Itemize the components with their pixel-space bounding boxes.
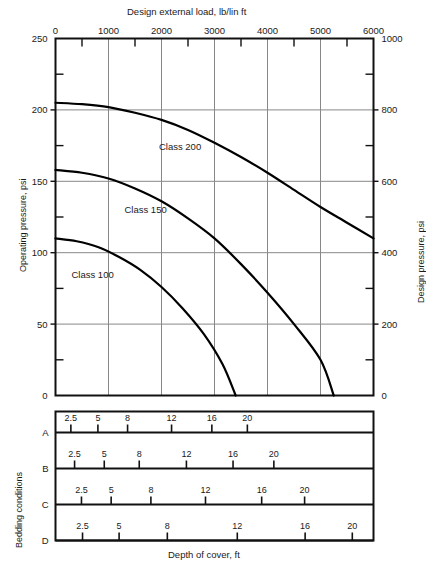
x-tick-label: 5000 (310, 25, 331, 36)
bedding-tick-label: 16 (207, 413, 217, 423)
gridlines (56, 39, 374, 396)
y-right-tick-label: 600 (382, 176, 398, 187)
bedding-tick-label: 12 (167, 413, 177, 423)
x-tick-label: 4000 (257, 25, 278, 36)
curve-label: Class 150 (124, 204, 166, 215)
y-right-tick-label: 1000 (382, 33, 403, 44)
y-left-tick-label: 0 (42, 390, 47, 401)
bedding-row-label: B (42, 463, 48, 474)
y-left-tick-label: 250 (32, 33, 48, 44)
bedding-tick-label: 16 (300, 521, 310, 531)
bedding-row-label: C (42, 499, 49, 510)
bedding-tick-label: 20 (242, 413, 252, 423)
bedding-tick-label: 8 (148, 485, 153, 495)
curve-class-150 (56, 170, 334, 396)
x-tick-label: 3000 (204, 25, 225, 36)
y-right-tick-label: 800 (382, 104, 398, 115)
bedding-tick-label: 2.5 (65, 413, 78, 423)
x-tick-label: 1000 (98, 25, 119, 36)
bedding-tick-label: 2.5 (75, 485, 88, 495)
y-right-tick-label: 200 (382, 319, 398, 330)
y-right-tick-label: 400 (382, 247, 398, 258)
bedding-tick-label: 2.5 (68, 449, 81, 459)
bedding-row-label: D (42, 535, 49, 546)
bedding-tick-label: 16 (257, 485, 267, 495)
bedding-tick-label: 12 (200, 485, 210, 495)
y-left-tick-label: 50 (37, 319, 48, 330)
y-right-tick-label: 0 (382, 390, 387, 401)
bedding-tick-label: 12 (181, 449, 191, 459)
bedding-tick-label: 20 (269, 449, 279, 459)
y-left-tick-label: 150 (32, 176, 48, 187)
bedding-tick-label: 20 (347, 521, 357, 531)
y-left-tick-label: 200 (32, 104, 48, 115)
bedding-tick-label: 8 (165, 521, 170, 531)
bedding-tick-label: 16 (228, 449, 238, 459)
bedding-tick-label: 8 (125, 413, 130, 423)
x-tick-label: 2000 (151, 25, 172, 36)
bedding-tick-label: 2.5 (76, 521, 89, 531)
bedding-tick-label: 5 (117, 521, 122, 531)
curve-class-100 (56, 238, 236, 395)
axis-tick-labels: 0100020003000400050006000050100150200250… (32, 25, 403, 402)
curve-label: Class 100 (71, 269, 113, 280)
bedding-tick-label: 5 (102, 449, 107, 459)
curve-labels: Class 200Class 150Class 100 (71, 141, 201, 281)
bedding-tick-label: 12 (232, 521, 242, 531)
bedding-tick-label: 20 (300, 485, 310, 495)
bedding-tick-label: 5 (109, 485, 114, 495)
x-tick-label: 0 (53, 25, 58, 36)
bedding-tick-label: 5 (95, 413, 100, 423)
bedding-tick-label: 8 (137, 449, 142, 459)
curve-label: Class 200 (159, 141, 201, 152)
bedding-box (56, 412, 374, 541)
bedding-scales: A2.558121620B2.558121620C2.558121620D2.5… (42, 412, 374, 547)
y-left-tick-label: 100 (32, 247, 48, 258)
bedding-row-label: A (42, 427, 49, 438)
